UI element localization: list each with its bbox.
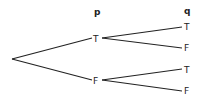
edge-pT-qT [102,27,182,38]
node-pF-qT: T [183,65,190,75]
edge-pF-qF [102,80,182,91]
node-p-false: F [93,76,98,86]
edge-pT-qF [102,38,182,48]
node-p-true: T [92,34,99,44]
node-pT-qF: F [184,43,189,53]
header-p: p [94,7,101,17]
node-pF-qF: F [184,86,189,96]
tree-diagram: p q T F T F T F [0,0,199,107]
edge-pF-qT [102,69,182,80]
header-q: q [184,6,190,16]
edge-root-p-false [12,59,92,80]
edge-root-p-true [12,38,92,59]
node-pT-qT: T [183,22,190,32]
